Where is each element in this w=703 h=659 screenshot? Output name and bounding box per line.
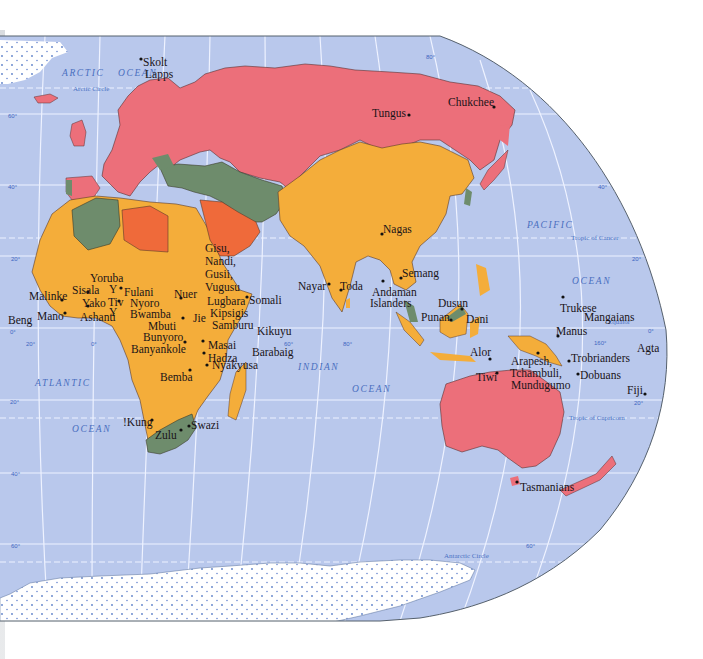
people-label-islanders: Islanders <box>370 297 412 309</box>
people-label-tungus: Tungus <box>372 107 406 119</box>
people-label-malinke: Malinke <box>29 290 67 302</box>
people-label-kikuyu: Kikuyu <box>257 325 292 337</box>
people-label-bwamba: Bwamba <box>130 308 171 320</box>
people-label-barabaig: Barabaig <box>252 346 294 358</box>
people-label-tiwi: Tiwi <box>476 371 497 383</box>
people-label-somali: Somali <box>249 294 282 306</box>
people-label-chukchee: Chukchee <box>448 96 494 108</box>
people-label-dusun: Dusun <box>438 297 468 309</box>
people-label-gusii: Gusii, <box>205 268 233 280</box>
people-label-vugusu: Vugusu <box>205 281 240 293</box>
people-label-toda: Toda <box>340 280 363 292</box>
people-label-mundugumo: Mundugumo <box>511 379 570 391</box>
people-label-bunyoro: Bunyoro <box>143 331 183 343</box>
people-label-skolt: Skolt <box>143 56 167 68</box>
people-label-dobuans: Dobuans <box>580 369 621 381</box>
people-label-lapps: Lapps <box>145 68 173 80</box>
people-label-semang: Semang <box>402 267 439 279</box>
people-label-fiji: Fiji <box>627 384 643 396</box>
people-label-samburu: Samburu <box>212 319 254 331</box>
world-map: ARCTIC OCEAN ATLANTIC OCEAN INDIAN OCEAN… <box>0 0 703 659</box>
people-label-zulu: Zulu <box>155 429 177 441</box>
people-label-manus: Manus <box>556 325 587 337</box>
people-label-nayar: Nayar <box>298 280 326 292</box>
people-label-jie: Jie <box>193 312 206 324</box>
people-label-sisala: Sisala <box>72 284 99 296</box>
people-label-swazi: Swazi <box>191 419 219 431</box>
people-label-ashanti: Ashanti <box>80 311 116 323</box>
people-location-dots <box>0 0 703 659</box>
people-label-kung: !Kung <box>123 416 152 428</box>
people-label-banyankole: Banyankole <box>131 343 186 355</box>
people-label-nagas: Nagas <box>383 223 412 235</box>
people-label-gisu: Gisu, <box>205 242 230 254</box>
people-label-bemba: Bemba <box>160 371 193 383</box>
people-label-yoruba: Yoruba <box>90 272 123 284</box>
people-label-trobrianders: Trobrianders <box>571 352 630 364</box>
people-label-beng: Beng <box>8 314 32 326</box>
people-label-alor: Alor <box>470 346 491 358</box>
people-label-tchambuli: Tchambuli, <box>510 367 562 379</box>
people-label-agta: Agta <box>637 342 659 354</box>
people-label-kipsigis: Kipsigis <box>210 307 248 319</box>
people-label-masai: Masai <box>208 339 236 351</box>
people-label-tasmanians: Tasmanians <box>520 481 574 493</box>
people-label-yako: Yako <box>82 297 106 309</box>
people-label-nuer: Nuer <box>174 288 197 300</box>
people-label-mano: Mano <box>37 310 64 322</box>
people-label-mangaians: Mangaians <box>584 311 634 323</box>
people-label-arapesh: Arapesh, <box>511 355 552 367</box>
people-label-y-marker: Y <box>109 283 117 295</box>
people-label-dani: Dani <box>466 313 488 325</box>
people-label-punan: Punan <box>421 311 450 323</box>
people-label-nandi: Nandi, <box>205 255 236 267</box>
people-label-lugbara: Lugbara <box>207 295 245 307</box>
people-label-nyakyusa: Nyakyusa <box>212 359 258 371</box>
